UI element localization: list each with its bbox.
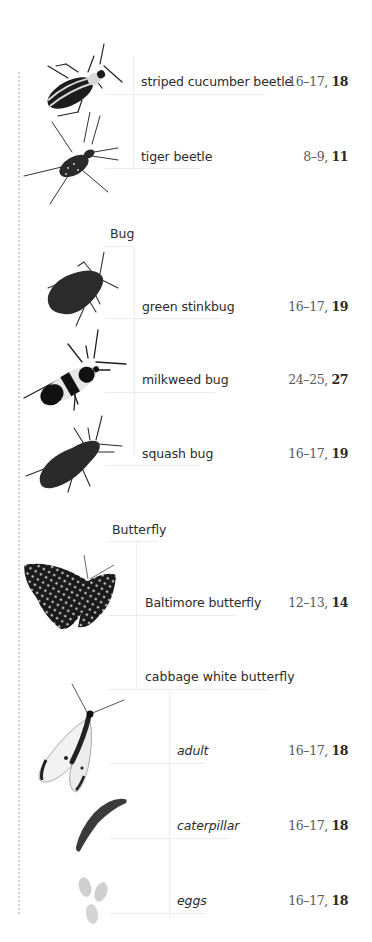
page-range: 16–17, <box>288 299 328 314</box>
main-page-number: 14 <box>331 595 348 610</box>
index-entry-label: eggs <box>177 893 207 909</box>
tree-line-horizontal <box>110 838 230 839</box>
tree-line-vertical <box>134 246 135 456</box>
tree-line-horizontal <box>110 763 205 764</box>
tiger-beetle-icon <box>22 112 122 207</box>
page-range: 16–17, <box>288 893 328 908</box>
page-range: 16–17, <box>288 818 328 833</box>
page-reference: 16–17, 19 <box>288 299 348 315</box>
index-entry-label: green stinkbug <box>142 299 235 315</box>
baltimore-butterfly-icon <box>22 553 122 635</box>
eggs-icon <box>76 876 112 926</box>
page-range: 8–9, <box>303 149 328 164</box>
page-range: 16–17, <box>288 743 328 758</box>
page-reference: 16–17, 19 <box>288 446 348 462</box>
index-entry-label: adult <box>177 743 208 759</box>
tree-line-horizontal <box>110 913 205 914</box>
tree-line-horizontal <box>105 168 200 169</box>
page-range: 24–25, <box>288 372 328 387</box>
tree-line-horizontal <box>105 94 265 95</box>
page-reference: 16–17, 18 <box>288 893 348 909</box>
index-entry-label: caterpillar <box>177 818 239 834</box>
main-page-number: 11 <box>331 149 348 164</box>
cabbage-white-adult-icon <box>32 680 128 796</box>
index-entry-label: Baltimore butterfly <box>145 595 261 611</box>
page-reference: 16–17, 18 <box>288 74 348 90</box>
main-page-number: 18 <box>331 893 348 908</box>
page-range: 16–17, <box>288 74 328 89</box>
striped-cucumber-beetle-icon <box>38 42 128 122</box>
index-entry-label: squash bug <box>142 446 213 462</box>
section-heading: Butterfly <box>112 522 166 538</box>
main-page-number: 19 <box>331 299 348 314</box>
tree-line-horizontal <box>105 392 215 393</box>
page-reference: 8–9, 11 <box>303 149 348 165</box>
page-reference: 16–17, 18 <box>288 743 348 759</box>
tree-line-horizontal <box>108 541 158 542</box>
tree-line-vertical <box>136 541 137 691</box>
main-page-number: 27 <box>331 372 348 387</box>
page-range: 16–17, <box>288 446 328 461</box>
squash-bug-icon <box>22 414 127 496</box>
page-range: 12–13, <box>288 595 328 610</box>
tree-line-vertical <box>169 689 170 919</box>
tree-line-horizontal <box>105 318 221 319</box>
index-entry-label: striped cucumber beetle <box>141 74 292 90</box>
tree-line-horizontal <box>103 246 135 247</box>
page-reference: 16–17, 18 <box>288 818 348 834</box>
main-page-number: 18 <box>331 743 348 758</box>
page-reference: 24–25, 27 <box>288 372 348 388</box>
caterpillar-icon <box>70 795 130 855</box>
section-heading: Bug <box>110 226 134 242</box>
tree-line-horizontal <box>108 615 236 616</box>
tree-line-horizontal <box>105 465 200 466</box>
page-reference: 12–13, 14 <box>288 595 348 611</box>
index-entry-label: milkweed bug <box>142 372 228 388</box>
subgroup-heading: cabbage white butterfly <box>145 669 295 685</box>
index-entry-label: tiger beetle <box>141 149 212 165</box>
main-page-number: 18 <box>331 818 348 833</box>
main-page-number: 19 <box>331 446 348 461</box>
main-page-number: 18 <box>331 74 348 89</box>
tree-line-vertical <box>133 55 134 170</box>
milkweed-bug-icon <box>22 328 130 414</box>
dotted-margin-rule <box>18 72 20 914</box>
tree-line-horizontal <box>108 689 268 690</box>
